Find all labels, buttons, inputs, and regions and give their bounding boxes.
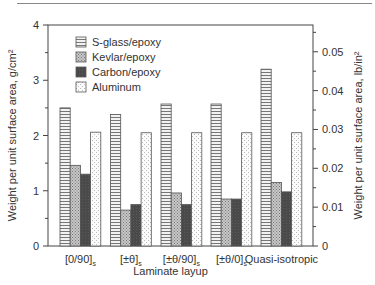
bar-s-glass-epoxy <box>161 104 171 246</box>
y-axis-title: Weight per unit surface area, g/cm² <box>6 49 18 221</box>
bar-s-glass-epoxy <box>111 115 121 246</box>
legend-swatch <box>76 67 86 77</box>
bar-kevlar-epoxy <box>121 210 131 246</box>
bar-carbon-epoxy <box>281 192 291 246</box>
legend-swatch <box>76 37 86 47</box>
x-tick-label: [±θ/0]s <box>216 253 247 267</box>
y-tick-label: 2 <box>33 130 39 142</box>
y-right-axis-title: Weight per unit surface area, lb/in² <box>352 51 364 219</box>
y-tick-label: 0 <box>33 240 39 252</box>
x-tick-label: [0/90]s <box>65 253 97 267</box>
bar-s-glass-epoxy <box>211 104 221 246</box>
y-tick-label: 1 <box>33 185 39 197</box>
legend-label: Carbon/epoxy <box>92 66 161 78</box>
bar-carbon-epoxy <box>181 205 191 246</box>
bar-aluminum <box>242 133 252 246</box>
y-right-tick-label: 0.01 <box>322 201 343 213</box>
y-tick-label: 3 <box>33 74 39 86</box>
x-axis-title: Laminate layup <box>133 265 208 277</box>
legend-label: Aluminum <box>92 81 141 93</box>
bar-s-glass-epoxy <box>261 69 271 246</box>
bar-aluminum <box>292 133 302 246</box>
bar-s-glass-epoxy <box>60 108 70 246</box>
legend-label: Kevlar/epoxy <box>92 51 156 63</box>
legend-label: S-glass/epoxy <box>92 36 162 48</box>
y-right-tick-label: 0.04 <box>322 85 343 97</box>
bar-chart: 0123400.010.020.030.040.05 S-glass/epoxy… <box>0 0 375 285</box>
bar-carbon-epoxy <box>231 199 241 246</box>
y-right-tick-label: 0.03 <box>322 123 343 135</box>
bar-aluminum <box>91 132 101 246</box>
y-tick-label: 4 <box>33 19 39 31</box>
bar-kevlar-epoxy <box>70 165 80 246</box>
bar-aluminum <box>192 133 202 246</box>
bar-carbon-epoxy <box>131 205 141 246</box>
legend-swatch <box>76 52 86 62</box>
x-tick-label: Quasi-isotropic <box>245 253 319 265</box>
y-right-tick-label: 0.05 <box>322 46 343 58</box>
bar-aluminum <box>141 133 151 246</box>
legend: S-glass/epoxyKevlar/epoxyCarbon/epoxyAlu… <box>76 36 162 93</box>
bar-kevlar-epoxy <box>221 199 231 246</box>
y-right-tick-label: 0.02 <box>322 162 343 174</box>
y-right-tick-label: 0 <box>322 240 328 252</box>
bar-carbon-epoxy <box>80 174 90 246</box>
bar-kevlar-epoxy <box>271 182 281 246</box>
legend-swatch <box>76 82 86 92</box>
bars <box>60 69 302 246</box>
bar-kevlar-epoxy <box>171 193 181 246</box>
